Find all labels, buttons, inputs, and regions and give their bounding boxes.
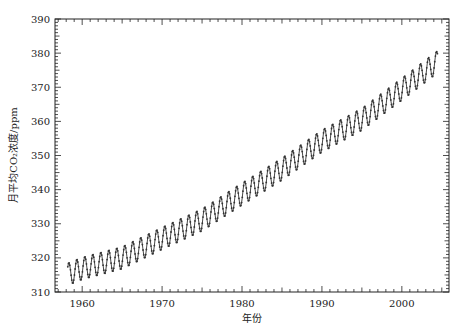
data-point: [138, 246, 140, 248]
data-point: [193, 231, 195, 233]
data-point: [86, 263, 88, 265]
data-point: [180, 218, 182, 220]
data-point: [418, 73, 420, 75]
data-point: [298, 154, 300, 156]
data-point: [397, 83, 399, 85]
data-point: [429, 63, 431, 65]
data-point: [178, 227, 180, 229]
data-point: [94, 266, 96, 268]
data-point: [185, 235, 187, 237]
data-point: [93, 256, 95, 258]
data-point: [249, 197, 251, 199]
data-point: [312, 157, 314, 159]
data-point: [357, 113, 359, 115]
data-point: [423, 79, 425, 81]
data-point: [209, 217, 211, 219]
data-point: [189, 217, 191, 219]
data-point: [108, 250, 110, 252]
data-point: [157, 231, 159, 233]
data-point: [421, 65, 423, 67]
data-point: [362, 115, 364, 117]
x-tick-label: 1990: [309, 298, 334, 309]
data-point: [420, 63, 422, 65]
data-point: [413, 71, 415, 73]
x-tick-label: 2000: [389, 298, 414, 309]
data-point: [347, 119, 349, 121]
data-point: [198, 223, 200, 225]
data-point: [192, 234, 194, 236]
data-point: [85, 258, 87, 260]
data-point: [425, 79, 427, 81]
data-point: [233, 207, 235, 209]
data-point: [305, 160, 307, 162]
data-point: [289, 166, 291, 168]
data-point: [407, 92, 409, 94]
data-point: [414, 81, 416, 83]
y-tick-label: 340: [31, 184, 50, 195]
data-point: [134, 253, 136, 255]
data-point: [212, 201, 214, 203]
data-point: [101, 254, 103, 256]
data-point: [275, 165, 277, 167]
data-point: [354, 120, 356, 122]
data-point: [244, 180, 246, 182]
data-point: [263, 187, 265, 189]
data-point: [402, 85, 404, 87]
data-point: [398, 93, 400, 95]
data-point: [81, 276, 83, 278]
data-point: [270, 177, 272, 179]
data-point: [78, 266, 80, 268]
axis-ticks: [55, 19, 449, 292]
data-point: [348, 115, 350, 117]
data-point: [199, 228, 201, 230]
data-point: [110, 262, 112, 264]
data-point: [126, 257, 128, 259]
data-point: [296, 169, 298, 171]
y-tick-label: 390: [31, 14, 50, 25]
data-point: [173, 224, 175, 226]
data-point: [142, 249, 144, 251]
data-point: [92, 254, 94, 256]
data-point: [174, 234, 176, 236]
data-point: [129, 262, 131, 264]
data-point: [367, 122, 369, 124]
data-point: [340, 119, 342, 121]
data-point: [209, 222, 211, 224]
data-point: [202, 216, 204, 218]
data-point: [190, 227, 192, 229]
data-point: [361, 127, 363, 129]
data-point: [314, 143, 316, 145]
data-point: [322, 137, 324, 139]
data-point: [207, 223, 209, 225]
data-point: [268, 166, 270, 168]
data-point: [433, 72, 435, 74]
data-point: [213, 203, 215, 205]
data-point: [80, 279, 82, 281]
data-point: [82, 271, 84, 273]
data-point: [249, 191, 251, 193]
data-point: [435, 55, 437, 57]
data-point: [273, 182, 275, 184]
data-point: [382, 105, 384, 107]
data-point: [256, 195, 258, 197]
data-point: [218, 206, 220, 208]
data-point: [77, 261, 79, 263]
data-point: [181, 220, 183, 222]
data-point: [368, 124, 370, 126]
data-point: [98, 267, 100, 269]
data-point: [311, 155, 313, 157]
data-point: [436, 51, 438, 53]
data-point: [116, 247, 118, 249]
data-point: [215, 218, 217, 220]
data-point: [330, 133, 332, 135]
data-point: [360, 130, 362, 132]
x-tick-label: 1960: [69, 298, 94, 309]
data-point: [285, 162, 287, 164]
data-point: [217, 217, 219, 219]
data-point: [164, 225, 166, 227]
data-point: [141, 239, 143, 241]
data-point: [408, 94, 410, 96]
data-point: [257, 186, 259, 188]
data-point: [123, 249, 125, 251]
data-point: [399, 98, 401, 100]
